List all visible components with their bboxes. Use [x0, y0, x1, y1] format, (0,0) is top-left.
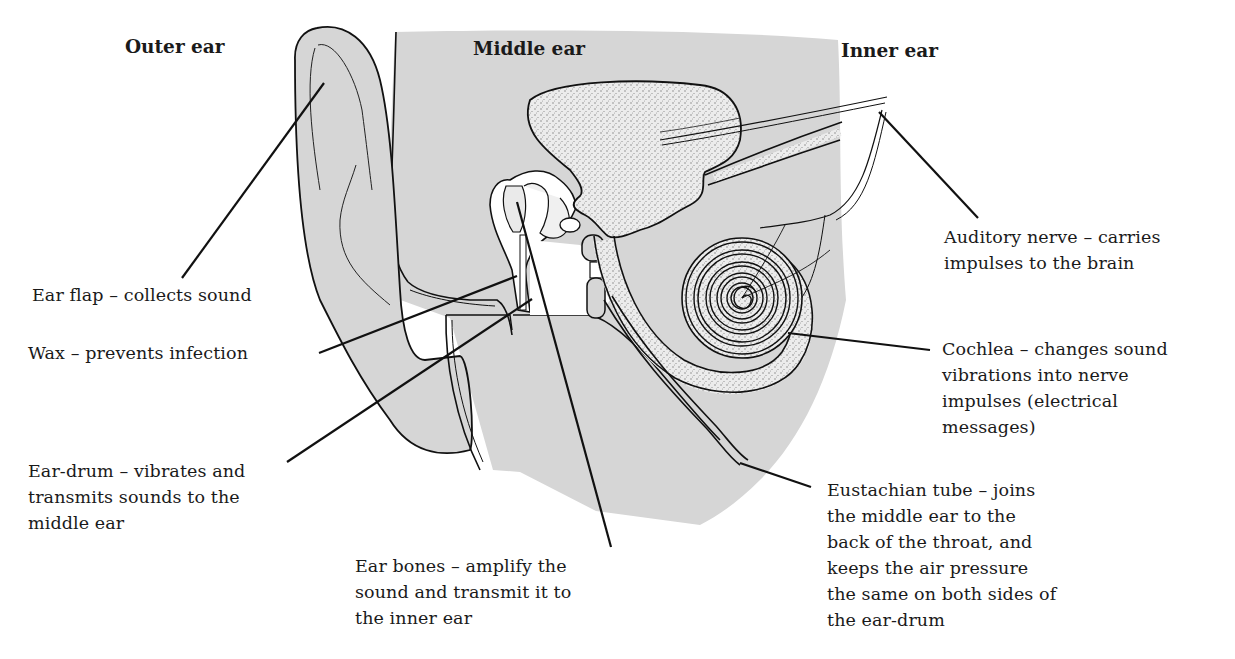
label-ear-flap: Ear flap – collects sound — [32, 282, 252, 308]
label-ear-bones: Ear bones – amplify the sound and transm… — [355, 553, 571, 631]
label-cochlea: Cochlea – changes sound vibrations into … — [942, 336, 1168, 440]
label-ear-drum: Ear-drum – vibrates and transmits sounds… — [28, 458, 245, 536]
label-eustachian-tube: Eustachian tube – joins the middle ear t… — [827, 477, 1056, 633]
label-wax: Wax – prevents infection — [28, 340, 248, 366]
heading-outer-ear: Outer ear — [125, 36, 225, 57]
ear-diagram: Outer ear Middle ear Inner ear Ear flap … — [0, 0, 1235, 659]
label-auditory-nerve: Auditory nerve – carries impulses to the… — [944, 224, 1161, 276]
heading-inner-ear: Inner ear — [841, 40, 938, 61]
heading-middle-ear: Middle ear — [473, 38, 585, 59]
